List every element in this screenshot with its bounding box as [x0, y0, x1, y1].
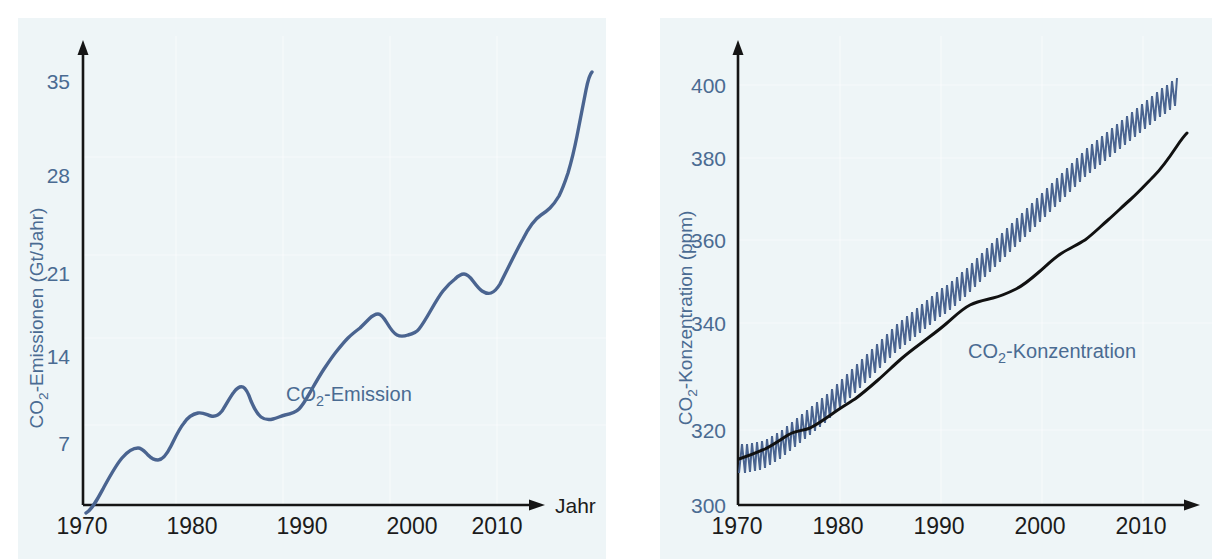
annotation-sub: 2 — [998, 350, 1006, 366]
y-tick-label: 21 — [47, 262, 70, 285]
emissions-chart-svg: 35 28 21 14 7 CO2-Emissionen (Gt/Jahr) C… — [18, 18, 606, 559]
y-tick-label: 360 — [691, 229, 726, 252]
x-tick-row-concentration: 1970 1980 1990 2000 2010 — [660, 508, 1212, 548]
concentration-chart-svg: 400 380 360 340 320 300 CO2-Konzentratio… — [660, 18, 1212, 559]
chart-panel-emissions: 35 28 21 14 7 CO2-Emissionen (Gt/Jahr) C… — [18, 18, 606, 559]
y-axis-title-sub: 2 — [685, 389, 700, 397]
y-tick-label: 28 — [47, 164, 70, 187]
x-tick-row-emissions: 1970 1980 1990 2000 2010 — [0, 508, 620, 548]
y-tick-label: 380 — [691, 147, 726, 170]
x-tick-label: 2000 — [1014, 513, 1065, 539]
figure-container: 35 28 21 14 7 CO2-Emissionen (Gt/Jahr) C… — [0, 0, 1212, 559]
x-tick-label: 1970 — [711, 513, 762, 539]
gridlines-emissions — [83, 36, 606, 505]
y-axis-title-sub: 2 — [36, 392, 51, 400]
y-tick-label: 14 — [47, 345, 71, 368]
x-tick-label: 1970 — [56, 513, 107, 539]
y-axis-concentration — [733, 40, 744, 505]
emissions-series-annotation: CO2-Emission — [286, 383, 412, 409]
y-tick-label: 7 — [58, 432, 70, 455]
svg-text:CO2-Emissionen (Gt/Jahr): CO2-Emissionen (Gt/Jahr) — [26, 208, 51, 429]
y-axis-emissions — [78, 40, 89, 505]
x-tick-label: 2010 — [471, 513, 522, 539]
x-tick-label: 2010 — [1115, 513, 1166, 539]
annotation-rest: -Konzentration — [1006, 340, 1136, 362]
chart-panel-concentration: 400 380 360 340 320 300 CO2-Konzentratio… — [660, 18, 1212, 559]
y-axis-title-main: CO — [26, 400, 47, 429]
y-tick-label: 340 — [691, 312, 726, 335]
annotation-main: CO — [286, 383, 316, 405]
x-tick-label: 2000 — [386, 513, 437, 539]
x-tick-label: 1990 — [276, 513, 327, 539]
y-axis-title-rest: -Emissionen (Gt/Jahr) — [26, 208, 47, 393]
emissions-data-curve — [86, 72, 592, 513]
x-tick-label: 1980 — [166, 513, 217, 539]
annotation-main: CO — [968, 340, 998, 362]
y-axis-title-emissions: CO2-Emissionen (Gt/Jahr) — [26, 208, 51, 429]
y-axis-title-main: CO — [675, 397, 696, 426]
y-tick-label: 35 — [47, 70, 70, 93]
x-tick-label: 1990 — [913, 513, 964, 539]
concentration-series-annotation: CO2-Konzentration — [968, 340, 1136, 366]
y-axis-title-rest: -Konzentration (ppm) — [675, 211, 696, 389]
annotation-rest: -Emission — [324, 383, 412, 405]
annotation-sub: 2 — [316, 393, 324, 409]
y-tick-label: 400 — [691, 74, 726, 97]
x-tick-label: 1980 — [812, 513, 863, 539]
y-tick-label: 320 — [691, 419, 726, 442]
concentration-seasonal-curve — [739, 78, 1177, 473]
